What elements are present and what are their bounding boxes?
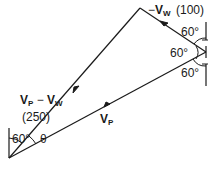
angle-label-right-top: 60° — [181, 25, 199, 39]
angle-label-right-bottom: 60° — [181, 66, 199, 80]
arrow-icon — [73, 86, 79, 93]
angle-label-origin-60: 60° — [12, 132, 30, 146]
vector-diagram: VP − VW (250) −VW (100) VP 60° θ 60° 60°… — [0, 0, 213, 171]
label-vp: VP — [100, 112, 114, 127]
label-250: (250) — [22, 110, 50, 124]
label-vp-minus-vw: VP − VW — [20, 93, 63, 108]
arrow-icon — [104, 102, 110, 107]
label-neg-vw: −VW — [148, 3, 171, 18]
angle-label-theta: θ — [40, 132, 47, 146]
angle-arc-right-bottom — [193, 59, 206, 66]
angle-label-right-middle: 60° — [170, 46, 188, 60]
label-100: (100) — [176, 3, 204, 17]
